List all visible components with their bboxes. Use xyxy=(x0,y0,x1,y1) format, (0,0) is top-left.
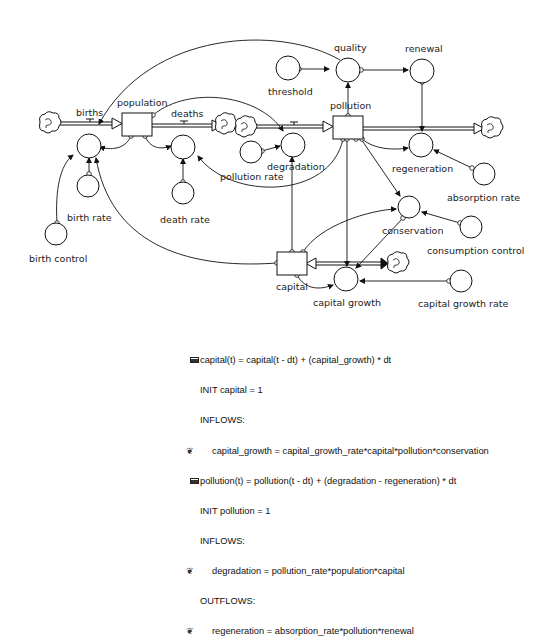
flow-valve-icon: ❦ xyxy=(186,566,194,576)
source-cloud-icon xyxy=(236,116,258,137)
converter-renewal[interactable]: renewal xyxy=(405,43,443,83)
converter-label: conservation xyxy=(382,225,443,236)
stock-label: pollution xyxy=(330,100,371,111)
stock-pollution[interactable]: pollution xyxy=(330,100,371,139)
equation-line: INIT capital = 1 xyxy=(200,385,489,395)
stock-capital[interactable]: capital xyxy=(276,252,308,292)
converter-conservation[interactable]: conservation xyxy=(382,196,443,236)
sink-cloud-icon xyxy=(482,117,504,138)
stock-flow-diagram: population pollution capital births deat… xyxy=(0,0,537,310)
stock-icon xyxy=(190,478,199,484)
converter-label: death rate xyxy=(160,214,210,225)
equation-line: INIT pollution = 1 xyxy=(200,506,489,516)
converter-label: renewal xyxy=(405,43,443,54)
flow-deaths[interactable]: deaths xyxy=(171,108,203,159)
source-cloud-icon xyxy=(40,112,62,133)
flow-valve-icon: ❦ xyxy=(186,626,194,636)
converter-absorption-rate[interactable]: absorption rate xyxy=(447,163,520,203)
converter-consumption-control[interactable]: consumption control xyxy=(427,216,524,256)
flow-valve-icon: ❦ xyxy=(186,446,194,456)
flow-label: regeneration xyxy=(392,163,453,174)
converter-quality[interactable]: quality xyxy=(334,42,367,82)
stock-label: population xyxy=(117,97,168,108)
flow-label: deaths xyxy=(171,108,203,119)
equation-list: capital(t) = capital(t - dt) + (capital_… xyxy=(200,335,489,640)
converter-birth-control[interactable]: birth control xyxy=(29,223,87,264)
equation-line: INFLOWS: xyxy=(200,536,489,546)
converter-birth-rate[interactable]: birth rate xyxy=(67,175,112,223)
equation-line: ❦capital_growth = capital_growth_rate*ca… xyxy=(200,446,489,456)
converter-label: birth control xyxy=(29,253,87,264)
stock-population[interactable]: population xyxy=(117,97,168,136)
stock-icon xyxy=(190,357,199,363)
flow-label: births xyxy=(76,107,103,118)
equation-line: OUTFLOWS: xyxy=(200,596,489,606)
stock-label: capital xyxy=(276,281,308,292)
flow-births[interactable]: births xyxy=(76,107,103,158)
equation-line: ❦regeneration = absorption_rate*pollutio… xyxy=(200,626,489,636)
converter-label: birth rate xyxy=(67,212,112,223)
flow-label: capital growth xyxy=(313,297,381,308)
equation-line: pollution(t) = pollution(t - dt) + (degr… xyxy=(200,476,489,486)
flow-regeneration[interactable]: regeneration xyxy=(392,133,453,174)
converter-death-rate[interactable]: death rate xyxy=(160,182,210,225)
equation-line: INFLOWS: xyxy=(200,415,489,425)
converter-label: consumption control xyxy=(427,245,524,256)
sink-cloud-icon xyxy=(216,113,238,134)
converter-label: absorption rate xyxy=(447,192,520,203)
converter-threshold[interactable]: threshold xyxy=(268,56,313,97)
converter-capital-growth-rate[interactable]: capital growth rate xyxy=(418,270,508,309)
equation-line: capital(t) = capital(t - dt) + (capital_… xyxy=(200,355,489,365)
converter-label: threshold xyxy=(268,86,313,97)
converter-label: pollution rate xyxy=(220,171,284,182)
equation-line: ❦degradation = pollution_rate*population… xyxy=(200,566,489,576)
converter-label: quality xyxy=(334,42,367,53)
converter-label: capital growth rate xyxy=(418,298,508,309)
sink-cloud-icon xyxy=(388,252,410,273)
flow-degradation[interactable]: degradation xyxy=(267,133,325,172)
